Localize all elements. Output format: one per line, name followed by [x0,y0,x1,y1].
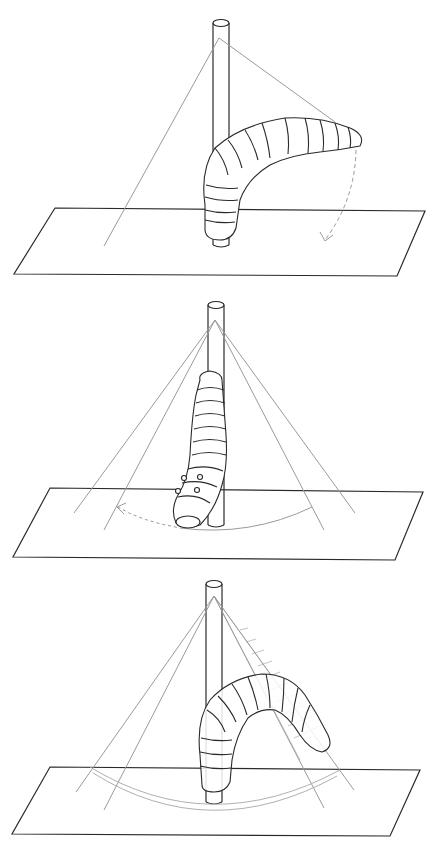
panel-1 [0,0,441,285]
motion-arrow [325,150,356,240]
guide-line [104,38,219,246]
panel-3 [0,570,441,852]
caterpillar [204,118,362,240]
ground-plane [13,488,423,560]
panel-2 [0,285,441,570]
caterpillar-figure [0,0,441,852]
caterpillar [199,674,330,792]
caterpillar [173,371,226,528]
guide-line [219,38,335,122]
